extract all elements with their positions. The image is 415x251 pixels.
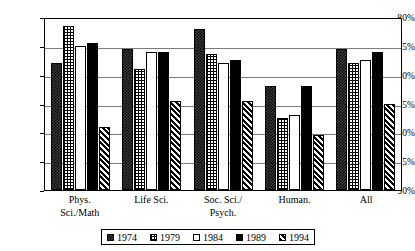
bar-1989[interactable] (158, 52, 169, 190)
bar-1974[interactable] (194, 29, 205, 190)
x-category-line2: Psych. (187, 207, 259, 220)
bar-1974[interactable] (122, 49, 133, 190)
bar-1974[interactable] (51, 63, 62, 190)
x-category-label: Human. (259, 194, 331, 219)
x-category-line1: Life Sci. (134, 194, 168, 205)
bar-1989[interactable] (230, 60, 241, 190)
legend-label: 1979 (160, 232, 180, 243)
bar-group (330, 19, 401, 190)
legend-swatch-1974 (107, 234, 114, 241)
legend-item-1994[interactable]: 1994 (279, 232, 309, 243)
bar-1994[interactable] (170, 101, 181, 190)
legend-label: 1994 (289, 232, 309, 243)
x-category-label: Soc. Sci./Psych. (187, 194, 259, 219)
legend-swatch-1979 (150, 234, 157, 241)
legend-item-1984[interactable]: 1984 (193, 232, 223, 243)
bar-1984[interactable] (218, 63, 229, 190)
legend-label: 1989 (246, 232, 266, 243)
bar-1989[interactable] (301, 86, 312, 190)
bar-1979[interactable] (277, 118, 288, 190)
x-category-label: Phys.Sci./Math (44, 194, 116, 219)
bar-group (259, 19, 330, 190)
bar-group (45, 19, 116, 190)
x-category-label: Life Sci. (116, 194, 188, 219)
bar-1994[interactable] (242, 101, 253, 190)
x-category-label: All (330, 194, 402, 219)
legend-item-1974[interactable]: 1974 (107, 232, 137, 243)
x-category-line2: Sci./Math (44, 207, 116, 220)
y-tick-mark (40, 191, 44, 192)
bar-1984[interactable] (146, 52, 157, 190)
bar-1989[interactable] (87, 43, 98, 190)
bar-1979[interactable] (134, 69, 145, 190)
bar-1984[interactable] (360, 60, 371, 190)
bar-1989[interactable] (372, 52, 383, 190)
bar-group (187, 19, 258, 190)
x-category-line1: Human. (279, 194, 311, 205)
bar-1994[interactable] (99, 127, 110, 190)
legend-swatch-1989 (236, 234, 243, 241)
bar-groups (45, 19, 401, 190)
legend-swatch-1994 (279, 234, 286, 241)
bar-1984[interactable] (75, 46, 86, 190)
legend-item-1979[interactable]: 1979 (150, 232, 180, 243)
legend-label: 1974 (117, 232, 137, 243)
bar-group (116, 19, 187, 190)
legend-swatch-1984 (193, 234, 200, 241)
bar-1994[interactable] (313, 135, 324, 190)
x-axis-labels: Phys.Sci./MathLife Sci.Soc. Sci./Psych.H… (44, 194, 402, 219)
bar-1974[interactable] (265, 86, 276, 190)
x-category-line1: All (360, 194, 373, 205)
bar-1994[interactable] (384, 104, 395, 191)
bar-1979[interactable] (206, 54, 217, 190)
bar-1979[interactable] (63, 26, 74, 190)
plot-area (44, 18, 402, 191)
bar-1979[interactable] (348, 63, 359, 190)
bar-1984[interactable] (289, 115, 300, 190)
legend-item-1989[interactable]: 1989 (236, 232, 266, 243)
x-category-line1: Phys. (69, 194, 91, 205)
bar-1974[interactable] (336, 49, 347, 190)
legend: 19741979198419891994 (101, 229, 315, 245)
bar-chart: 80%75%70%65%60%55%50% Phys.Sci./MathLife… (0, 0, 415, 251)
legend-label: 1984 (203, 232, 223, 243)
x-category-line1: Soc. Sci./ (204, 194, 242, 205)
